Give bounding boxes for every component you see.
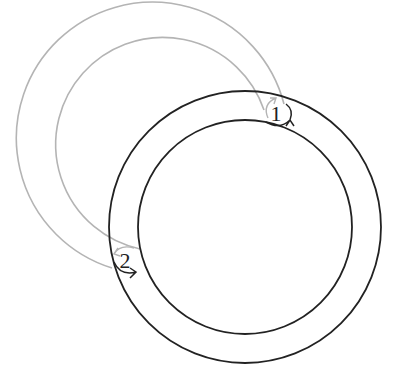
ghost-ring (16, 2, 284, 268)
ring-diagram: 1 2 (0, 0, 394, 379)
marker-2-label: 2 (120, 248, 131, 273)
current-ring (109, 91, 381, 363)
ghost-ring-inner-arc (56, 37, 264, 249)
marker-1: 1 (266, 98, 294, 126)
marker-1-label: 1 (271, 101, 282, 126)
current-ring-inner-circle (138, 120, 352, 334)
current-ring-outer-circle (109, 91, 381, 363)
